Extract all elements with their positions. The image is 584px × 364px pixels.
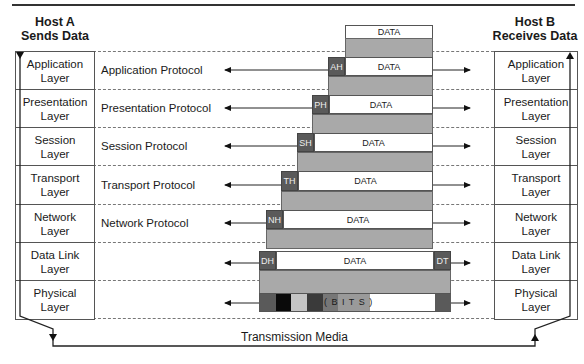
up-arrow-icon (531, 334, 539, 341)
down-arrow-icon (16, 52, 24, 59)
connector-lines (0, 0, 584, 364)
down-arrow-icon (49, 334, 57, 341)
up-arrow-icon (566, 52, 574, 59)
